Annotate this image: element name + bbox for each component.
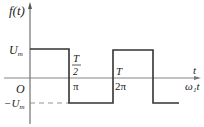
- square-wave-diagram: f(t) Um O −Um T 2 π T 2π t ω₁t: [0, 0, 204, 127]
- y-axis-label: f(t): [9, 3, 25, 18]
- x-axis-label-bottom: ω₁t: [185, 80, 201, 92]
- origin-label: O: [16, 82, 25, 96]
- square-wave-trace: [30, 49, 179, 103]
- x-axis-label-top: t: [193, 64, 197, 76]
- upper-level-label: Um: [9, 43, 23, 58]
- tick-2-top-label: T: [116, 65, 123, 77]
- tick-2-bottom-label: 2π: [115, 80, 127, 92]
- tick-1-bottom-label: π: [73, 80, 79, 92]
- tick-1-top-numerator: T: [73, 52, 80, 64]
- tick-1-top-denominator: 2: [73, 66, 78, 77]
- lower-level-label: −Um: [4, 97, 24, 111]
- y-axis-arrow-icon: [28, 2, 32, 9]
